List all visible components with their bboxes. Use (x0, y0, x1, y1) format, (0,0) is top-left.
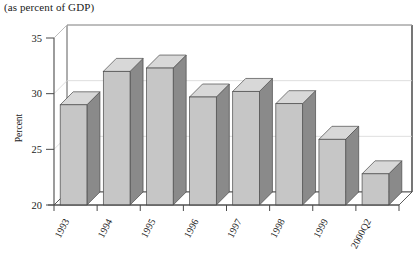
y-tick-label: 25 (32, 144, 43, 155)
y-tick-label: 20 (32, 200, 43, 211)
x-tick-label: 1994 (95, 217, 114, 240)
bar-1999 (319, 126, 359, 205)
x-tick-label: 1995 (138, 217, 157, 240)
y-axis-title: Percent (14, 113, 24, 142)
x-tick-label: 1996 (182, 217, 201, 240)
bar-1993 (60, 92, 100, 205)
y-tick-label: 30 (32, 88, 43, 99)
bar-1995 (146, 55, 186, 205)
y-tick-label: 35 (32, 33, 43, 44)
bar-1998 (276, 91, 316, 205)
chart-container: (as percent of GDP) 20253035 19931994199… (0, 0, 420, 254)
x-tick-label: 1999 (311, 217, 330, 240)
bar-1994 (103, 58, 143, 205)
bar-1997 (233, 78, 273, 205)
bar-2000Q2 (362, 161, 402, 205)
y-tick-labels: 20253035 (32, 33, 43, 211)
x-tick-label: 2000Q2 (348, 217, 373, 251)
x-tick-label: 1998 (268, 217, 287, 240)
bar-chart-svg: 20253035 1993199419951996199719981999200… (0, 0, 420, 254)
x-tick-labels: 19931994199519961997199819992000Q2 (52, 217, 373, 251)
bar-1996 (190, 84, 230, 205)
x-tick-label: 1997 (225, 217, 244, 240)
x-tick-label: 1993 (52, 217, 71, 240)
